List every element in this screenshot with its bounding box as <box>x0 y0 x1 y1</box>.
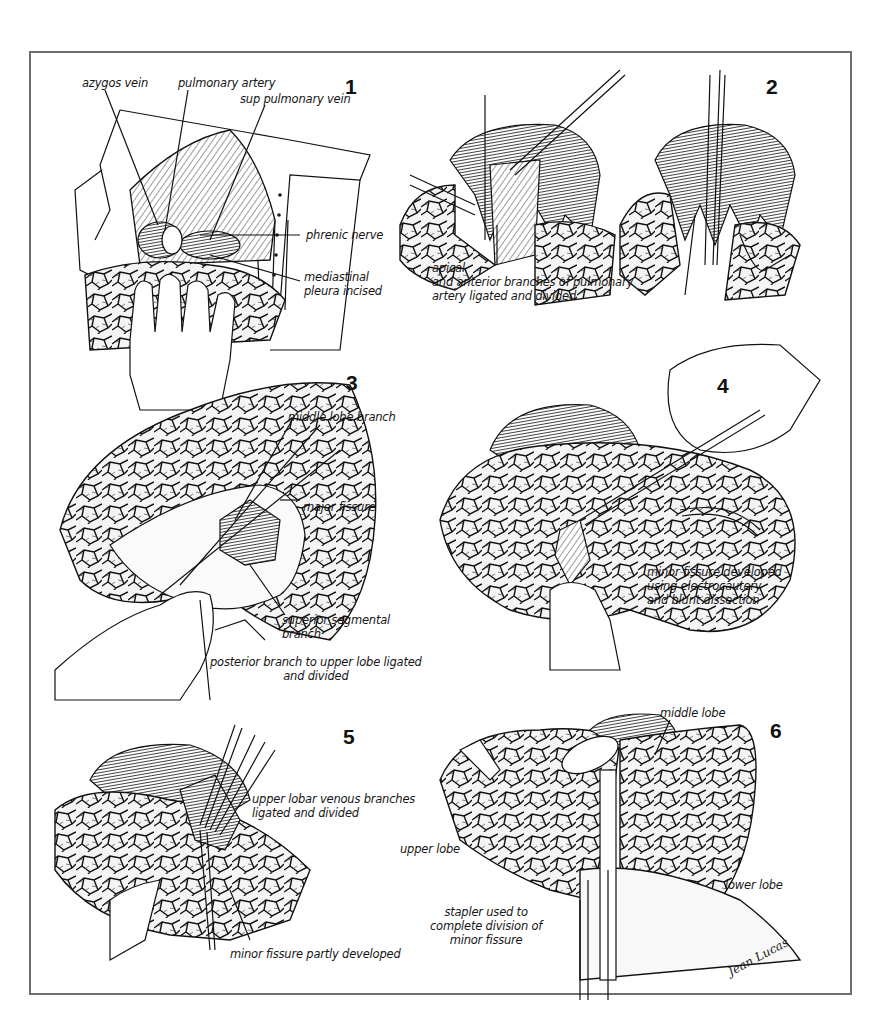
panel-number-4: 4 <box>717 375 729 396</box>
label-phrenic-nerve: phrenic nerve <box>306 228 383 242</box>
label-apical-anterior-branches: apical and anterior branches of pulmonar… <box>432 261 633 303</box>
panel-number-3: 3 <box>346 372 358 393</box>
panel-4-illustration <box>430 340 850 690</box>
panel-number-2: 2 <box>766 76 778 97</box>
panel-5-illustration <box>50 720 430 980</box>
panel-4: minor fissure developed using electrocau… <box>430 340 850 690</box>
label-upper-lobe: upper lobe <box>400 842 460 856</box>
panel-6-illustration <box>420 700 850 1000</box>
label-posterior-branch: posterior branch to upper lobe ligated a… <box>210 655 422 683</box>
panel-2: apical and anterior branches of pulmonar… <box>395 65 815 315</box>
label-mediastinal-pleura: mediastinal pleura incised <box>304 270 382 298</box>
panel-number-6: 6 <box>770 720 782 741</box>
panel-6: middle lobe upper lobe lower lobe staple… <box>420 700 850 1000</box>
label-sup-pulmonary-vein: sup pulmonary vein <box>240 92 351 106</box>
label-pulmonary-artery: pulmonary artery <box>178 76 275 90</box>
label-upper-lobar-venous-branches: upper lobar venous branches ligated and … <box>252 792 415 820</box>
label-minor-fissure-partly: minor fissure partly developed <box>230 947 400 961</box>
label-middle-lobe-branch: middle lobe branch <box>288 410 396 424</box>
label-lower-lobe: lower lobe <box>725 878 783 892</box>
label-major-fissure: major fissure <box>303 500 376 514</box>
label-minor-fissure-developed: minor fissure developed using electrocau… <box>647 565 782 607</box>
label-azygos-vein: azygos vein <box>82 76 148 90</box>
panel-number-1: 1 <box>345 76 357 97</box>
panel-number-5: 5 <box>343 726 355 747</box>
label-middle-lobe: middle lobe <box>660 706 725 720</box>
panel-1: azygos vein pulmonary artery sup pulmona… <box>60 70 400 410</box>
label-superior-segmental-branch: superior segmental branch <box>282 613 430 641</box>
panel-5: upper lobar venous branches ligated and … <box>50 720 430 980</box>
label-stapler: stapler used to complete division of min… <box>430 905 542 947</box>
panel-3: middle lobe branch major fissure superio… <box>50 370 430 700</box>
